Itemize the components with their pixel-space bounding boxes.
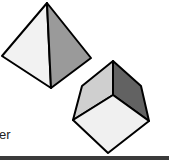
pyramid-left-face [2,3,51,88]
bottom-bar [0,156,169,160]
cube-shape [73,61,149,153]
caption-text: er [0,128,11,142]
pyramid-right-face [47,3,91,88]
shapes-diagram [0,0,169,160]
pyramid-shape [2,3,91,88]
